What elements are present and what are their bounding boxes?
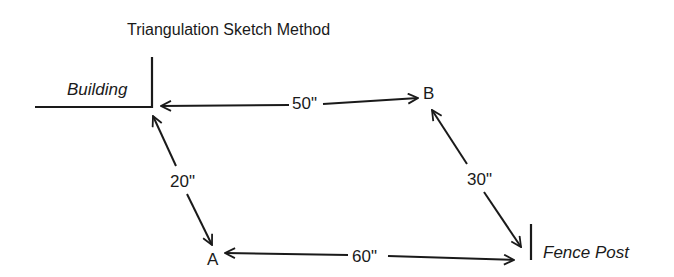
measurement-20: 20" xyxy=(168,173,197,190)
measurement-60: 60" xyxy=(350,248,379,265)
point-b-label: B xyxy=(423,85,434,102)
diagram-canvas xyxy=(0,0,674,277)
building-label: Building xyxy=(67,81,128,98)
triangulation-diagram: Triangulation Sketch Method Building Fen… xyxy=(0,0,674,277)
fence-post-label: Fence Post xyxy=(543,244,629,261)
diagram-title: Triangulation Sketch Method xyxy=(127,22,330,38)
measurement-50: 50" xyxy=(290,95,319,112)
measurement-30: 30" xyxy=(465,171,494,188)
point-a-label: A xyxy=(207,251,218,268)
